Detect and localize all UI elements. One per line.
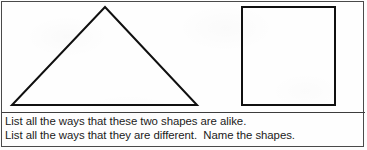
- shapes-region: [2, 2, 365, 112]
- prompt-region: List all the ways that these two shapes …: [2, 113, 365, 148]
- triangle-shape: [12, 7, 197, 105]
- shapes-drawing: [2, 2, 365, 112]
- prompt-line-alike: List all the ways that these two shapes …: [5, 115, 365, 129]
- worksheet-page: List all the ways that these two shapes …: [0, 0, 367, 150]
- prompt-line-different: List all the ways that they are differen…: [5, 129, 365, 143]
- scanned-sheet: List all the ways that these two shapes …: [1, 1, 364, 147]
- square-shape: [242, 7, 335, 105]
